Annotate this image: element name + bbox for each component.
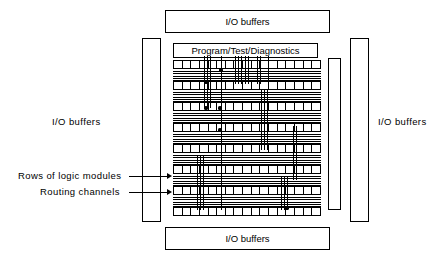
logic-module-row bbox=[173, 186, 321, 195]
logic-module bbox=[226, 124, 235, 131]
vertical-interconnect bbox=[203, 156, 204, 210]
logic-module bbox=[278, 82, 287, 89]
logic-module bbox=[243, 145, 252, 152]
logic-module bbox=[174, 103, 183, 110]
logic-module bbox=[252, 187, 261, 194]
logic-module bbox=[269, 208, 278, 215]
interconnect-via bbox=[285, 206, 288, 209]
logic-module bbox=[234, 145, 243, 152]
logic-module bbox=[269, 61, 278, 68]
logic-module bbox=[183, 103, 192, 110]
logic-module bbox=[191, 124, 200, 131]
logic-module bbox=[174, 166, 183, 173]
routing-track bbox=[173, 162, 321, 163]
logic-module bbox=[234, 166, 243, 173]
logic-module bbox=[252, 124, 261, 131]
interconnect-via bbox=[218, 128, 221, 131]
logic-module bbox=[304, 82, 313, 89]
vertical-interconnect bbox=[264, 90, 265, 150]
routing-track bbox=[173, 141, 321, 142]
logic-module bbox=[234, 208, 243, 215]
vertical-interconnect bbox=[210, 56, 211, 108]
logic-module bbox=[243, 124, 252, 131]
logic-module bbox=[312, 166, 320, 173]
logic-module bbox=[226, 145, 235, 152]
logic-module bbox=[260, 187, 269, 194]
logic-module bbox=[278, 124, 287, 131]
vertical-interconnect bbox=[261, 90, 262, 150]
logic-module bbox=[226, 61, 235, 68]
routing-track bbox=[173, 115, 321, 116]
logic-module bbox=[252, 208, 261, 215]
logic-module bbox=[234, 103, 243, 110]
logic-module bbox=[312, 61, 320, 68]
interconnect-via bbox=[204, 106, 207, 109]
logic-module bbox=[183, 61, 192, 68]
vertical-interconnect bbox=[221, 56, 222, 210]
logic-module bbox=[226, 208, 235, 215]
logic-module bbox=[278, 103, 287, 110]
logic-module bbox=[269, 82, 278, 89]
inner-right-routing-bar bbox=[328, 58, 341, 210]
vertical-interconnect bbox=[238, 56, 239, 84]
logic-module bbox=[286, 103, 295, 110]
vertical-interconnect bbox=[267, 90, 268, 150]
logic-module bbox=[183, 145, 192, 152]
logic-module-row bbox=[173, 165, 321, 174]
routing-track bbox=[173, 92, 321, 93]
logic-module bbox=[200, 145, 209, 152]
io-buffers-bottom-label: I/O buffers bbox=[225, 233, 269, 244]
logic-module bbox=[304, 187, 313, 194]
logic-module bbox=[174, 208, 183, 215]
routing-track bbox=[173, 181, 321, 182]
logic-module bbox=[174, 82, 183, 89]
logic-module bbox=[243, 187, 252, 194]
annotation-rows-of-logic-modules: Rows of logic modules bbox=[18, 170, 121, 181]
logic-module-row bbox=[173, 144, 321, 153]
logic-module bbox=[312, 208, 320, 215]
logic-module bbox=[226, 187, 235, 194]
vertical-interconnect bbox=[235, 56, 236, 84]
program-test-diagnostics-label: Program/Test/Diagnostics bbox=[191, 45, 299, 56]
routing-track bbox=[173, 118, 321, 119]
vertical-interconnect bbox=[241, 56, 242, 84]
logic-module bbox=[304, 103, 313, 110]
routing-track bbox=[173, 183, 321, 184]
routing-track bbox=[173, 78, 321, 79]
vertical-interconnect bbox=[296, 126, 297, 180]
routing-track bbox=[173, 139, 321, 140]
logic-module bbox=[174, 61, 183, 68]
logic-module bbox=[243, 103, 252, 110]
leader-arrow-rows bbox=[167, 173, 172, 179]
diagram-canvas: I/O buffers I/O buffers I/O buffers I/O … bbox=[0, 0, 438, 257]
logic-module bbox=[191, 166, 200, 173]
routing-track bbox=[173, 136, 321, 137]
logic-module bbox=[183, 208, 192, 215]
leader-arrow-channels bbox=[167, 189, 172, 195]
logic-array-core bbox=[173, 60, 321, 210]
logic-module bbox=[252, 166, 261, 173]
logic-module bbox=[295, 103, 304, 110]
routing-track bbox=[173, 113, 321, 114]
logic-module bbox=[209, 124, 218, 131]
logic-module bbox=[304, 61, 313, 68]
logic-module bbox=[269, 124, 278, 131]
logic-module bbox=[252, 145, 261, 152]
vertical-interconnect bbox=[200, 156, 201, 210]
io-buffers-bottom: I/O buffers bbox=[165, 227, 330, 250]
logic-module bbox=[312, 82, 320, 89]
routing-track bbox=[173, 120, 321, 121]
routing-track bbox=[173, 178, 321, 179]
interconnect-via bbox=[218, 106, 221, 109]
logic-module bbox=[243, 166, 252, 173]
logic-module-row bbox=[173, 102, 321, 111]
logic-module bbox=[269, 166, 278, 173]
logic-module bbox=[312, 145, 320, 152]
annotation-routing-channels: Routing channels bbox=[40, 186, 120, 197]
logic-module bbox=[260, 208, 269, 215]
vertical-interconnect bbox=[284, 176, 285, 210]
logic-module bbox=[191, 208, 200, 215]
io-buffers-top: I/O buffers bbox=[165, 10, 330, 33]
logic-module-row bbox=[173, 60, 321, 69]
logic-module bbox=[183, 124, 192, 131]
